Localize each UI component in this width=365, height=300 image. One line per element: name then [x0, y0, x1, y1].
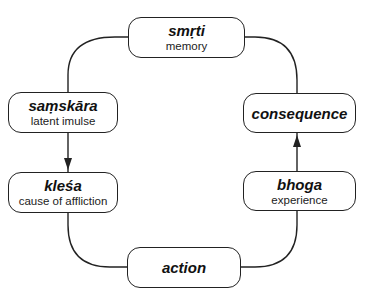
node-term: consequence [252, 105, 348, 122]
edge-smrti-samskara [68, 37, 128, 92]
node-smrti: smṛti memory [128, 17, 245, 58]
node-consequence: consequence [243, 93, 356, 133]
edge-consequence-smrti [245, 37, 297, 93]
node-gloss: experience [271, 193, 327, 207]
edge-klesa-action [68, 213, 127, 267]
arrowhead-to-consequence [293, 135, 301, 147]
node-term: kleśa [44, 177, 82, 194]
node-gloss: cause of affliction [19, 194, 108, 208]
node-term: bhoga [277, 176, 322, 193]
node-term: action [162, 259, 206, 276]
node-term: saṃskāra [28, 97, 97, 114]
node-bhoga: bhoga experience [243, 171, 356, 211]
node-gloss: latent imulse [31, 114, 96, 128]
node-action: action [127, 247, 241, 288]
node-term: smṛti [168, 22, 205, 39]
node-gloss: memory [166, 39, 208, 53]
node-klesa: kleśa cause of affliction [8, 172, 118, 213]
node-samskara: saṃskāra latent imulse [8, 92, 118, 133]
arrowhead-to-klesa [64, 158, 72, 170]
edge-action-bhoga [241, 211, 297, 267]
